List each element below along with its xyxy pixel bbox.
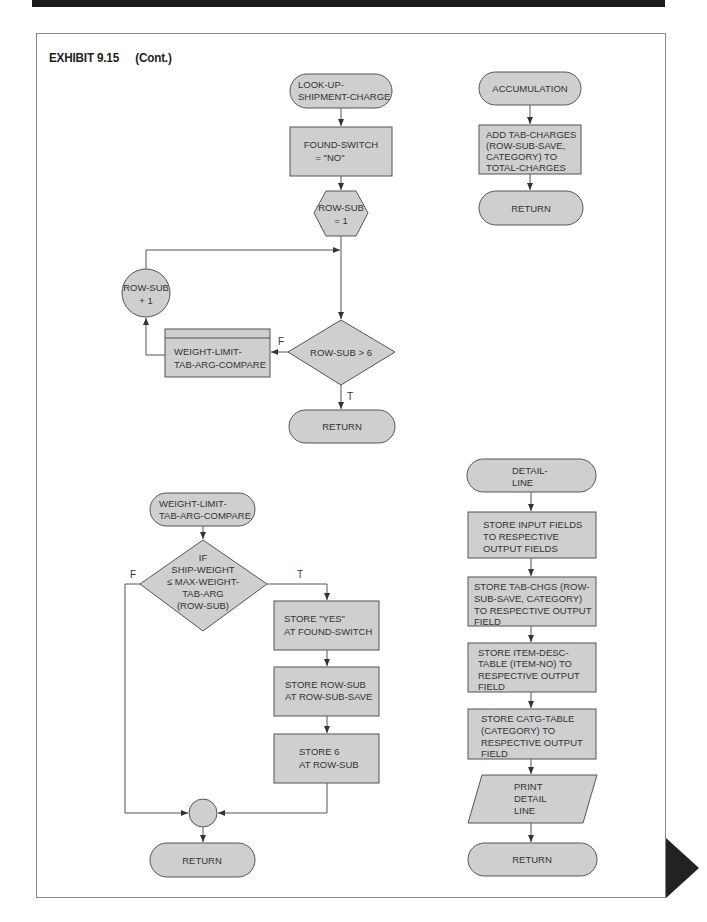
add-tab-charges-box: ADD TAB-CHARGES (ROW-SUB-SAVE, CATEGORY)…: [479, 125, 581, 174]
svg-text:PRINT: PRINT: [514, 781, 543, 792]
detail-line-flow: DETAIL- LINE STORE INPUT FIELDS TO RESPE…: [467, 459, 597, 876]
svg-text:RETURN: RETURN: [182, 855, 222, 866]
svg-text:FIELD: FIELD: [478, 681, 505, 692]
svg-text:(ROW-SUB): (ROW-SUB): [177, 600, 229, 611]
lookup-start-terminal: LOOK-UP- SHIPMENT-CHARGE: [290, 74, 392, 108]
svg-text:ACCUMULATION: ACCUMULATION: [492, 83, 567, 94]
init-found-switch-box: FOUND-SWITCH = "NO": [290, 127, 392, 176]
svg-text:TAB-ARG-COMPARE: TAB-ARG-COMPARE: [174, 359, 266, 370]
compare-start-terminal: WEIGHT-LIMIT- TAB-ARG-COMPARE: [150, 493, 255, 526]
ship-weight-decision: IF SHIP-WEIGHT ≤ MAX-WEIGHT- TAB-ARG (RO…: [140, 540, 267, 631]
svg-text:RESPECTIVE OUTPUT: RESPECTIVE OUTPUT: [481, 737, 583, 748]
svg-text:ROW-SUB: ROW-SUB: [318, 202, 364, 213]
svg-text:ADD TAB-CHARGES: ADD TAB-CHARGES: [486, 129, 576, 140]
true-label: T: [347, 391, 353, 402]
row-sub-gt-6-decision: ROW-SUB > 6: [288, 320, 395, 385]
row-sub-init-hexagon: ROW-SUB = 1: [314, 191, 368, 236]
detail-line-start-terminal: DETAIL- LINE: [467, 459, 596, 492]
svg-text:TOTAL-CHARGES: TOTAL-CHARGES: [486, 162, 566, 173]
svg-text:STORE "YES": STORE "YES": [284, 613, 345, 624]
svg-text:TAB-ARG-COMPARE: TAB-ARG-COMPARE: [159, 510, 251, 521]
accumulation-return-terminal: RETURN: [479, 191, 583, 225]
connector-circle: [189, 799, 217, 827]
svg-text:LINE: LINE: [512, 477, 533, 488]
svg-text:(ROW-SUB-SAVE,: (ROW-SUB-SAVE,: [486, 140, 565, 151]
print-detail-line-parallelogram: PRINT DETAIL LINE: [468, 775, 597, 823]
store-catg-table-box: STORE CATG-TABLE (CATEGORY) TO RESPECTIV…: [468, 709, 596, 759]
false-label: F: [278, 336, 284, 347]
store-yes-box: STORE "YES" AT FOUND-SWITCH: [274, 601, 379, 650]
lookup-return-terminal: RETURN: [289, 410, 395, 443]
svg-text:≤ MAX-WEIGHT-: ≤ MAX-WEIGHT-: [167, 576, 239, 587]
svg-text:SHIP-WEIGHT: SHIP-WEIGHT: [171, 564, 235, 575]
svg-text:DETAIL: DETAIL: [514, 793, 547, 804]
svg-text:FIELD: FIELD: [474, 616, 501, 627]
svg-text:AT ROW-SUB: AT ROW-SUB: [299, 759, 359, 770]
svg-text:LOOK-UP-: LOOK-UP-: [298, 79, 344, 90]
svg-text:IF: IF: [199, 552, 208, 563]
svg-text:WEIGHT-LIMIT-: WEIGHT-LIMIT-: [174, 346, 242, 357]
svg-text:= "NO": = "NO": [315, 152, 344, 163]
store-row-sub-box: STORE ROW-SUB AT ROW-SUB-SAVE: [274, 667, 379, 716]
svg-text:TO RESPECTIVE: TO RESPECTIVE: [483, 531, 559, 542]
lookup-flow: LOOK-UP- SHIPMENT-CHARGE FOUND-SWITCH = …: [122, 74, 395, 443]
svg-text:(CATEGORY) TO: (CATEGORY) TO: [481, 725, 555, 736]
svg-text:FIELD: FIELD: [481, 748, 508, 759]
svg-text:STORE ROW-SUB: STORE ROW-SUB: [285, 679, 366, 690]
svg-text:+ 1: + 1: [139, 295, 152, 306]
svg-text:SHIPMENT-CHARGE: SHIPMENT-CHARGE: [298, 91, 390, 102]
svg-text:RETURN: RETURN: [322, 421, 362, 432]
svg-text:RESPECTIVE OUTPUT: RESPECTIVE OUTPUT: [478, 670, 580, 681]
weight-limit-compare-subroutine: WEIGHT-LIMIT- TAB-ARG-COMPARE: [165, 329, 270, 377]
store-tab-chgs-box: STORE TAB-CHGS (ROW- SUB-SAVE, CATEGORY)…: [468, 577, 596, 627]
store-input-fields-box: STORE INPUT FIELDS TO RESPECTIVE OUTPUT …: [468, 512, 596, 558]
detail-line-return-terminal: RETURN: [468, 843, 597, 876]
accumulation-start-terminal: ACCUMULATION: [479, 72, 581, 105]
svg-text:AT ROW-SUB-SAVE: AT ROW-SUB-SAVE: [285, 691, 372, 702]
svg-text:ROW-SUB: ROW-SUB: [123, 282, 169, 293]
svg-text:STORE CATG-TABLE: STORE CATG-TABLE: [481, 713, 574, 724]
store-six-box: STORE 6 AT ROW-SUB: [274, 734, 379, 783]
svg-text:WEIGHT-LIMIT-: WEIGHT-LIMIT-: [159, 498, 227, 509]
svg-text:STORE ITEM-DESC-: STORE ITEM-DESC-: [478, 647, 569, 658]
svg-text:TAB-ARG: TAB-ARG: [182, 588, 224, 599]
store-item-desc-box: STORE ITEM-DESC- TABLE (ITEM-NO) TO RESP…: [468, 643, 596, 692]
compare-flow: WEIGHT-LIMIT- TAB-ARG-COMPARE IF SHIP-WE…: [125, 493, 379, 877]
svg-text:AT FOUND-SWITCH: AT FOUND-SWITCH: [284, 626, 372, 637]
svg-text:RETURN: RETURN: [512, 854, 552, 865]
svg-text:STORE 6: STORE 6: [299, 746, 339, 757]
page-turn-arrow-icon[interactable]: [666, 838, 699, 898]
false-label: F: [130, 569, 136, 580]
svg-text:TABLE (ITEM-NO) TO: TABLE (ITEM-NO) TO: [478, 658, 572, 669]
svg-text:TO RESPECTIVE OUTPUT: TO RESPECTIVE OUTPUT: [474, 605, 592, 616]
true-label: T: [297, 569, 303, 580]
svg-text:LINE: LINE: [514, 805, 535, 816]
row-sub-increment-circle: ROW-SUB + 1: [122, 269, 170, 317]
svg-text:DETAIL-: DETAIL-: [512, 465, 548, 476]
accumulation-flow: ACCUMULATION ADD TAB-CHARGES (ROW-SUB-SA…: [479, 72, 583, 225]
svg-text:STORE INPUT FIELDS: STORE INPUT FIELDS: [483, 519, 582, 530]
svg-text:SUB-SAVE, CATEGORY): SUB-SAVE, CATEGORY): [474, 593, 582, 604]
svg-text:OUTPUT FIELDS: OUTPUT FIELDS: [483, 543, 558, 554]
svg-text:CATEGORY) TO: CATEGORY) TO: [486, 151, 557, 162]
svg-text:STORE TAB-CHGS (ROW-: STORE TAB-CHGS (ROW-: [474, 581, 589, 592]
svg-text:ROW-SUB > 6: ROW-SUB > 6: [310, 347, 372, 358]
svg-text:RETURN: RETURN: [511, 203, 551, 214]
svg-text:FOUND-SWITCH: FOUND-SWITCH: [304, 139, 379, 150]
compare-return-terminal: RETURN: [150, 843, 255, 877]
svg-text:= 1: = 1: [334, 215, 347, 226]
